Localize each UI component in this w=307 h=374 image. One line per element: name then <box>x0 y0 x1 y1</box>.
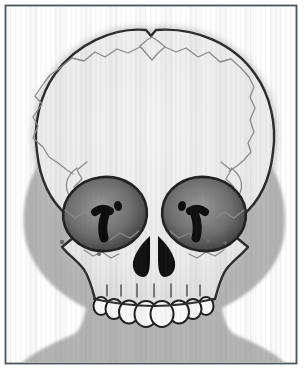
scan-streaks-wide <box>7 7 296 362</box>
illustration-page <box>0 0 307 374</box>
skull-illustration <box>0 0 307 374</box>
